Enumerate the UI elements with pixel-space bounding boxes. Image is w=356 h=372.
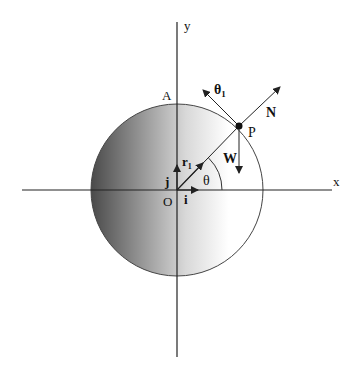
point-a-label: A (162, 88, 172, 103)
unit-j-label: j (164, 174, 169, 189)
unit-i-label: i (184, 192, 188, 207)
diagram-canvas: y x A P N W θ1 r1 θ i j O (0, 0, 356, 372)
diagram-svg: y x A P N W θ1 r1 θ i j O (0, 0, 356, 372)
point-p-label: P (248, 125, 256, 140)
theta-label: θ (203, 173, 210, 188)
y-axis-label: y (184, 18, 191, 33)
theta1-label: θ1 (214, 82, 226, 99)
x-axis-label: x (333, 174, 340, 189)
origin-label: O (163, 194, 172, 209)
weight-label: W (223, 151, 237, 166)
point-p-dot (236, 123, 243, 130)
normal-label: N (266, 105, 276, 120)
